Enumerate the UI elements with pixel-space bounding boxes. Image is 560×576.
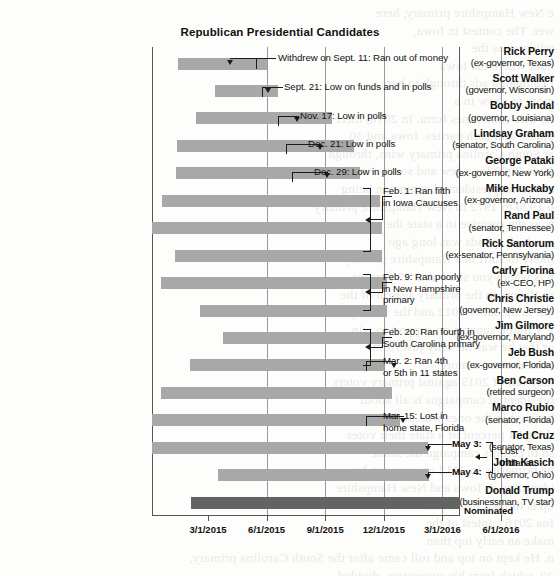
candidate-label: Rick Santorum(ex-senator, Pennsylvania) [410, 237, 560, 262]
annotation-nominated: Nominated [464, 505, 513, 517]
candidate-bar[interactable] [218, 469, 429, 481]
candidate-label: Lindsay Graham(senator, South Carolina) [410, 127, 560, 152]
x-axis-tick-label: 9/1/2015 [307, 524, 344, 535]
annotation-arrow [324, 173, 330, 178]
leader-line [278, 116, 298, 117]
leader-line [432, 472, 452, 473]
candidate-bar[interactable] [175, 250, 382, 262]
candidate-bar[interactable] [178, 58, 267, 70]
candidate-label: Bobby Jindal(governor, Louisiana) [410, 99, 560, 124]
leader-line [262, 87, 263, 97]
candidate-name: Donald Trump [410, 484, 554, 496]
candidate-name: George Pataki [410, 154, 554, 166]
leader-line [278, 116, 279, 126]
candidate-name: John Kasich [410, 456, 554, 468]
annotation-feb20: Feb. 20: Ran fourth in South Carolina pr… [383, 326, 480, 349]
candidate-bar[interactable] [161, 387, 392, 399]
leader-line [366, 416, 404, 417]
candidate-description: (ex-senator, Pennsylvania) [410, 249, 554, 261]
leader-line [256, 58, 257, 69]
annotation-arrow [475, 454, 480, 460]
leader-line [286, 144, 287, 154]
leader-line [292, 172, 293, 182]
leader-line [366, 361, 395, 362]
candidate-description: (senator, Tennessee) [410, 222, 554, 234]
x-axis-line [152, 515, 460, 516]
leader-line [292, 172, 328, 173]
gantt-chart: Republican Presidential Candidates 3/1/2… [0, 0, 560, 576]
candidate-bar[interactable] [152, 414, 400, 426]
candidate-description: (governor, New Jersey) [410, 304, 554, 316]
candidate-description: (governor, Ohio) [410, 469, 554, 481]
annotation-arrow [365, 344, 370, 350]
leader-line [370, 347, 382, 348]
leader-line [256, 58, 276, 59]
x-axis-tick [325, 515, 326, 521]
candidate-name: Scott Walker [410, 72, 554, 84]
candidate-name: Lindsay Graham [410, 127, 554, 139]
candidate-bar[interactable] [162, 195, 380, 207]
candidate-bar[interactable] [200, 305, 387, 317]
candidate-label: Rand Paul(senator, Tennessee) [410, 209, 560, 234]
x-axis-tick-label: 3/1/2015 [190, 524, 227, 535]
annotation-arrow [265, 88, 271, 93]
leader-line [262, 87, 269, 88]
candidate-bar[interactable] [152, 222, 382, 234]
candidate-description: (governor, Louisiana) [410, 112, 554, 124]
annotation-arrow [400, 418, 406, 423]
annotation-perry: Withdrew on Sept. 11: Ran out of money [278, 52, 448, 64]
annotation-arrow [294, 117, 300, 122]
leader-line [382, 337, 392, 338]
annotation-feb9: Feb. 9: Ran poorly in New Hampshire prim… [383, 271, 461, 306]
annotation-arrow [365, 289, 370, 295]
x-axis-tick [208, 515, 209, 521]
annotation-jindal: Nov. 17: Low in polls [300, 110, 387, 122]
annotation-mar15: Mar. 15: Lost in home state, Florida [383, 410, 464, 433]
annotation-lost-indiana: Lost Indiana [500, 445, 531, 468]
leader-line [428, 444, 433, 445]
candidate-bar[interactable] [161, 277, 387, 289]
candidate-label: John Kasich(governor, Ohio) [410, 456, 560, 481]
leader-line [432, 444, 452, 445]
candidate-name: Rick Santorum [410, 237, 554, 249]
annotation-arrow [317, 145, 323, 150]
leader-line [382, 337, 383, 348]
leader-line [370, 219, 371, 220]
x-axis-tick [384, 515, 385, 521]
annotation-walker: Sept. 21: Low on funds and in polls [284, 81, 431, 93]
leader-line [370, 219, 382, 220]
leader-line [230, 58, 257, 59]
leader-line [366, 361, 367, 371]
x-axis-tick-label: 6/1/2015 [248, 524, 285, 535]
annotation-arrow [227, 60, 233, 65]
leader-line [382, 282, 383, 293]
x-axis-tick-label: 12/1/2015 [363, 524, 405, 535]
chart-title: Republican Presidential Candidates [0, 26, 560, 38]
leader-line [479, 457, 487, 458]
candidate-name: Bobby Jindal [410, 99, 554, 111]
candidate-bar[interactable] [152, 442, 428, 454]
candidate-label: George Pataki(ex-governor, New York) [410, 154, 560, 179]
x-axis-tick [267, 515, 268, 521]
leader-line [286, 144, 321, 145]
annotation-arrow [391, 363, 397, 368]
leader-line [382, 282, 392, 283]
annotation-bracket [486, 442, 493, 473]
leader-line [370, 292, 382, 293]
candidate-label: Scott Walker(governor, Wisconsin) [410, 72, 560, 97]
annotation-may4: May 4: [452, 466, 482, 478]
candidate-bar[interactable] [223, 332, 384, 344]
candidate-name: Rand Paul [410, 209, 554, 221]
x-axis-tick-label: 3/1/2016 [424, 524, 461, 535]
x-axis-tick-label: 6/1/2016 [483, 524, 520, 535]
annotation-may3: May 3: [452, 438, 482, 450]
leader-line [382, 196, 383, 220]
leader-line [428, 472, 433, 473]
candidate-description: (senator, South Carolina) [410, 139, 554, 151]
candidate-description: (ex-governor, New York) [410, 167, 554, 179]
candidate-description: (governor, Wisconsin) [410, 84, 554, 96]
leader-line [382, 196, 392, 197]
candidate-bar[interactable] [190, 359, 384, 371]
candidate-description: (retired surgeon) [410, 386, 554, 398]
annotation-feb1: Feb. 1: Ran fifth in Iowa Caucuses [383, 185, 458, 208]
